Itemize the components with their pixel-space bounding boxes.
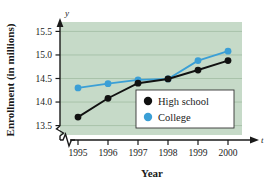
data-point xyxy=(135,80,142,87)
chart-canvas: 13.514.014.515.015.5 1995199619971998199… xyxy=(0,0,269,184)
chart-legend: High school College xyxy=(136,90,234,128)
data-point xyxy=(195,57,202,64)
y-axis-variable-label: y xyxy=(64,8,69,18)
x-axis-break-symbol xyxy=(60,134,75,146)
legend-marker-high-school xyxy=(144,97,152,105)
data-point xyxy=(105,80,112,87)
x-tick-label: 1996 xyxy=(99,148,118,158)
x-axis-arrowhead xyxy=(250,137,259,144)
legend-marker-college xyxy=(144,113,152,121)
y-tick-label: 15.0 xyxy=(35,50,52,60)
x-axis-tick-labels: 199519961997199819992000 xyxy=(69,148,238,158)
data-point xyxy=(75,85,82,92)
data-point xyxy=(105,95,112,102)
x-tick-label: 1998 xyxy=(159,148,178,158)
legend-label-high-school: High school xyxy=(158,96,209,107)
x-tick-label: 1999 xyxy=(189,148,208,158)
y-axis-title: Enrollment (in millions) xyxy=(4,23,17,136)
x-tick-label: 1997 xyxy=(129,148,148,158)
y-axis-tick-labels: 13.514.014.515.015.5 xyxy=(35,27,52,131)
data-point xyxy=(165,76,172,83)
data-point xyxy=(225,48,232,55)
y-tick-label: 14.5 xyxy=(35,74,52,84)
data-point xyxy=(75,114,82,121)
x-axis-variable-label: t xyxy=(261,135,264,145)
data-point xyxy=(195,67,202,74)
legend-label-college: College xyxy=(158,112,191,123)
x-axis-ticks xyxy=(78,140,228,145)
enrollment-line-chart: 13.514.014.515.015.5 1995199619971998199… xyxy=(0,0,269,184)
y-tick-label: 13.5 xyxy=(35,121,52,131)
y-tick-label: 14.0 xyxy=(35,97,52,107)
x-tick-label: 2000 xyxy=(219,148,238,158)
x-tick-label: 1995 xyxy=(69,148,88,158)
data-point xyxy=(225,57,232,64)
y-tick-label: 15.5 xyxy=(35,27,52,37)
x-axis-title: Year xyxy=(141,167,163,179)
